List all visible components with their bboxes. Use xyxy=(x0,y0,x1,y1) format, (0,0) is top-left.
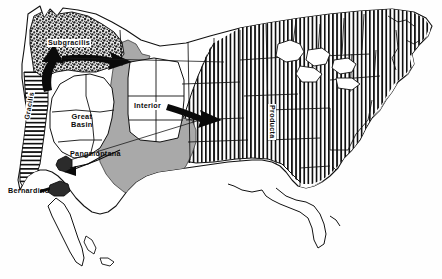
label-great-basin: Great Basin xyxy=(71,113,93,129)
label-subgracilis: Subgracilis xyxy=(47,39,91,47)
label-interior: Interior xyxy=(133,102,162,110)
florida-gulf-coast xyxy=(228,184,340,248)
distribution-map: Subgracilis Gracilis Great Basin Pangmon… xyxy=(0,0,442,279)
label-pangmontana: Pangmontana xyxy=(70,150,121,158)
region-interior xyxy=(128,58,184,142)
label-great-basin-line2: Basin xyxy=(71,120,93,129)
label-bernardino: Bernardino xyxy=(8,187,49,195)
label-producta: Producta xyxy=(268,104,276,140)
